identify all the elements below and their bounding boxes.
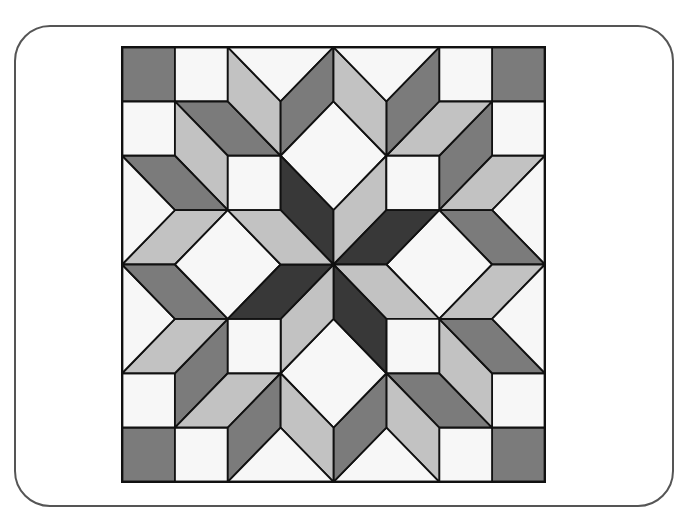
quilt-piece-edge-square-a-r2 bbox=[439, 428, 492, 482]
quilt-piece-edge-square-a-r0 bbox=[175, 47, 228, 101]
quilt-piece-inner-square-r3 bbox=[228, 319, 281, 373]
quilt-piece-edge-square-a-r3 bbox=[122, 373, 175, 427]
quilt-piece-edge-square-b-r2 bbox=[492, 373, 545, 427]
quilt-block bbox=[121, 46, 546, 483]
quilt-piece-corner-square-r2 bbox=[492, 428, 545, 482]
quilt-piece-corner-square-r1 bbox=[492, 47, 545, 101]
quilt-piece-inner-square-r0 bbox=[228, 156, 281, 210]
quilt-block-svg bbox=[121, 46, 546, 483]
quilt-piece-inner-square-r1 bbox=[386, 156, 439, 210]
quilt-piece-corner-square-r3 bbox=[122, 428, 175, 482]
quilt-piece-corner-square-r0 bbox=[122, 47, 175, 101]
quilt-piece-edge-square-b-r0 bbox=[122, 101, 175, 155]
quilt-piece-edge-square-a-r1 bbox=[492, 101, 545, 155]
quilt-piece-inner-square-r2 bbox=[386, 319, 439, 373]
quilt-piece-edge-square-b-r1 bbox=[439, 47, 492, 101]
quilt-piece-edge-square-b-r3 bbox=[175, 428, 228, 482]
